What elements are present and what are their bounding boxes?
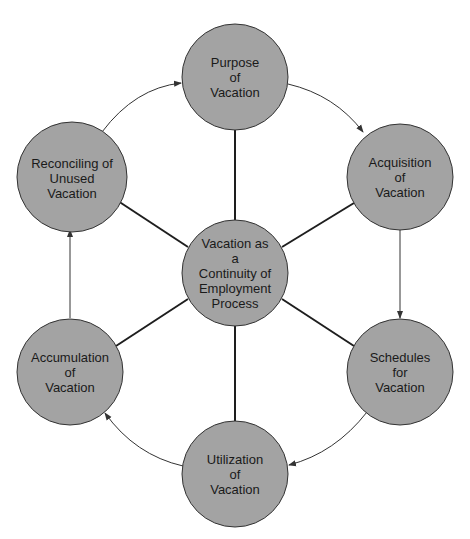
label-line: of [180,70,290,85]
label-line: Vacation [345,185,455,200]
node-purpose-label: Purpose of Vacation [180,55,290,100]
label-line: Schedules [345,350,455,365]
label-line: Vacation [17,186,127,201]
label-line: of [15,365,125,380]
label-line: Acquisition [345,155,455,170]
node-utilization-label: Utilization of Vacation [180,452,290,497]
label-line: Vacation [345,380,455,395]
node-accumulation-label: Accumulation of Vacation [15,350,125,395]
label-line: Vacation as [180,236,290,251]
label-line: Process [180,296,290,311]
label-line: Vacation [15,380,125,395]
spoke-reconciling [118,201,188,247]
label-line: of [345,170,455,185]
spoke-acquisition [282,203,354,247]
label-line: Vacation [180,85,290,100]
label-line: Purpose [180,55,290,70]
label-line: for [345,365,455,380]
node-schedules-label: Schedules for Vacation [345,350,455,395]
label-line: Accumulation [15,350,125,365]
label-line: Reconciling of [17,156,127,171]
node-acquisition-label: Acquisition of Vacation [345,155,455,200]
spoke-schedules [282,299,354,346]
arrow-schedules-to-utilization [289,412,367,465]
node-center-label: Vacation as a Continuity of Employment P… [180,236,290,311]
label-line: Employment [180,281,290,296]
spoke-accumulation [116,299,188,346]
arrow-utilization-to-accumulation [105,413,183,466]
label-line: Continuity of [180,266,290,281]
label-line: a [180,251,290,266]
label-line: Vacation [180,482,290,497]
label-line: Unused [17,171,127,186]
label-line: of [180,467,290,482]
arrow-reconciling-to-purpose [102,83,181,132]
node-reconciling-label: Reconciling of Unused Vacation [17,156,127,201]
label-line: Utilization [180,452,290,467]
arrow-purpose-to-acquisition [288,84,363,132]
